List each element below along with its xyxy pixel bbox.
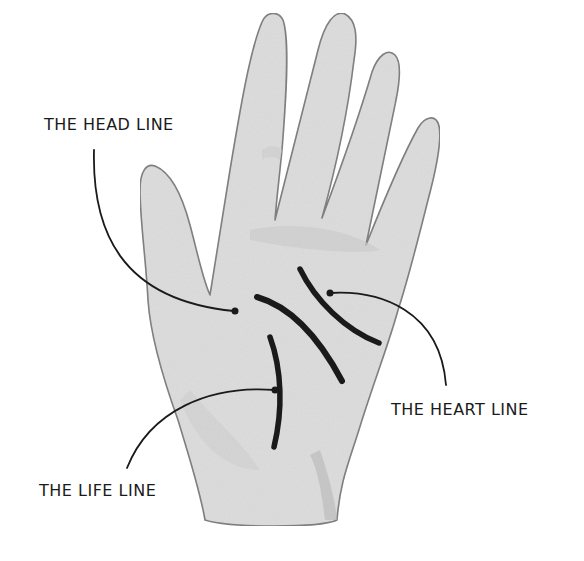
hand-outline	[140, 13, 440, 526]
life-line-label: THE LIFE LINE	[39, 481, 156, 500]
hand-shape	[140, 13, 440, 526]
life-line-dot	[272, 387, 279, 394]
head-line-dot	[232, 308, 239, 315]
heart-line-label: THE HEART LINE	[391, 400, 529, 419]
hand-illustration	[0, 0, 584, 561]
heart-line-dot	[327, 290, 334, 297]
head-line-label: THE HEAD LINE	[44, 115, 174, 134]
